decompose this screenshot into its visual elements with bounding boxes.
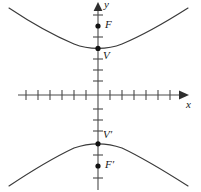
focus-upper-point (95, 23, 100, 28)
vertex-lower-prime: ′ (110, 128, 112, 140)
hyperbola-figure: y x F V V′ F′ (0, 0, 201, 192)
focus-lower-label: F′ (105, 159, 114, 170)
focus-lower-point (95, 163, 100, 168)
focus-upper-label: F (105, 19, 112, 30)
vertex-lower-label: V′ (103, 129, 112, 140)
x-axis-label: x (186, 99, 191, 110)
vertex-lower-letter: V (103, 128, 110, 140)
vertex-upper-point (95, 46, 100, 51)
y-axis-group (93, 2, 103, 190)
focus-lower-letter: F (105, 158, 112, 170)
focus-lower-prime: ′ (112, 158, 114, 170)
y-axis-label: y (104, 0, 109, 10)
vertex-lower-point (95, 141, 100, 146)
x-axis-group (18, 90, 189, 100)
figure-canvas (0, 0, 201, 192)
vertex-upper-label: V (103, 50, 110, 61)
y-axis-arrow-icon (94, 2, 103, 11)
